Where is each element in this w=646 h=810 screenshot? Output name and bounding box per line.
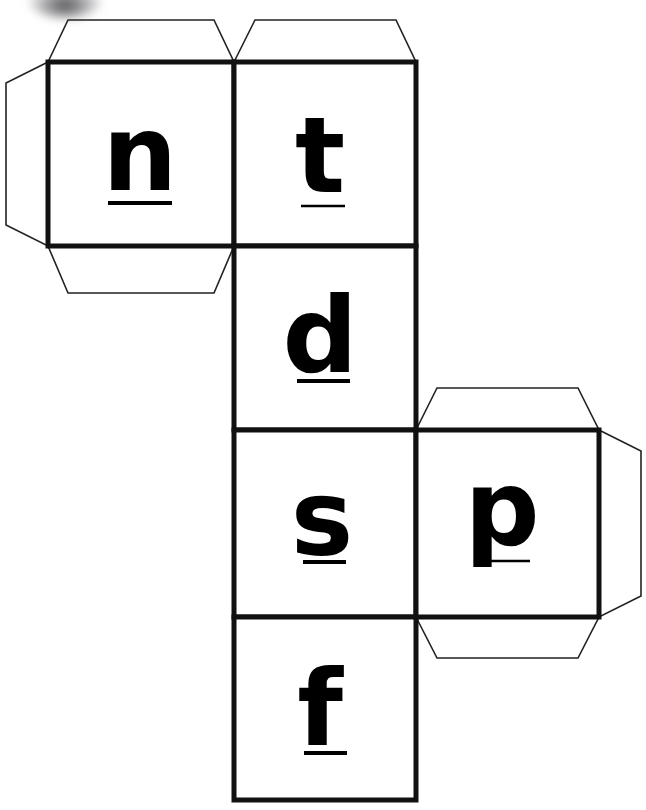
letter-n: n [103, 93, 178, 215]
flap-p-top [416, 388, 599, 430]
flap-n-bottom [48, 246, 234, 293]
cube-net-canvas: n t d s f p [0, 0, 646, 810]
flap-n-left [6, 62, 48, 246]
letter-t: t [295, 95, 345, 217]
cube-net-diagram: n t d s f p [0, 0, 646, 810]
flap-p-right [599, 430, 641, 617]
letter-p: p [464, 448, 539, 570]
flap-t-top [234, 20, 416, 62]
letter-d: d [282, 275, 357, 397]
flap-n-top [48, 20, 234, 62]
flap-p-bottom [416, 617, 599, 658]
